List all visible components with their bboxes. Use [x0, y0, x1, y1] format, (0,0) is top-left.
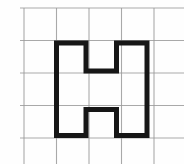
h-shape-on-grid-svg: [0, 0, 184, 164]
grid-paper-figure: [0, 0, 184, 164]
paper-background: [0, 0, 184, 164]
